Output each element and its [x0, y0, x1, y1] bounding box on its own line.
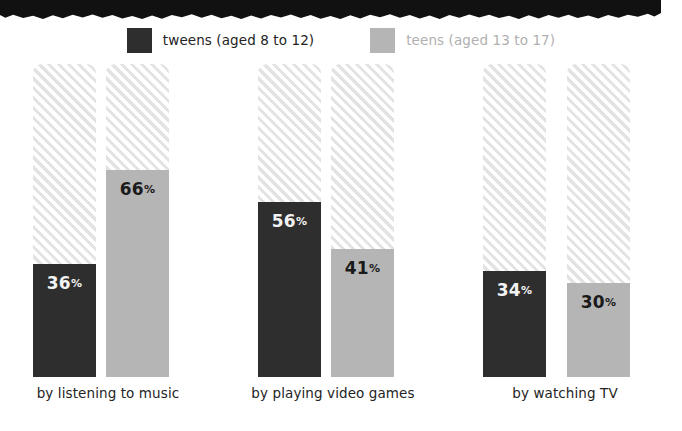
bar-fill-teens-music: 66%	[106, 170, 169, 377]
bar-teens-tv: 30%	[567, 64, 630, 377]
bar-value-teens-tv: 30%	[567, 292, 630, 312]
legend-swatch-teens	[370, 28, 395, 53]
bar-tweens-tv: 34%	[483, 64, 546, 377]
percent-sign: %	[605, 296, 616, 309]
legend-entry-tweens: tweens (aged 8 to 12)	[127, 28, 314, 53]
category-axis-labels: by listening to music by playing video g…	[0, 385, 682, 409]
legend-label-tweens: tweens (aged 8 to 12)	[163, 32, 314, 48]
bar-fill-teens-tv: 30%	[567, 283, 630, 377]
legend-label-teens: teens (aged 13 to 17)	[406, 32, 555, 48]
legend-swatch-tweens	[127, 28, 152, 53]
bar-tweens-music: 36%	[33, 64, 96, 377]
bar-value-tweens-music: 36%	[33, 273, 96, 293]
percent-sign: %	[521, 284, 532, 297]
category-label-tv: by watching TV	[470, 385, 660, 401]
chart-legend: tweens (aged 8 to 12) teens (aged 13 to …	[0, 27, 682, 53]
bar-fill-tweens-videogames: 56%	[258, 202, 321, 377]
bar-fill-teens-videogames: 41%	[331, 249, 394, 377]
percent-sign: %	[296, 215, 307, 228]
bar-fill-tweens-music: 36%	[33, 264, 96, 377]
percent-sign: %	[71, 277, 82, 290]
bar-value-teens-music: 66%	[106, 179, 169, 199]
category-label-videogames: by playing video games	[238, 385, 428, 401]
bar-teens-videogames: 41%	[331, 64, 394, 377]
bar-tweens-videogames: 56%	[258, 64, 321, 377]
bar-teens-music: 66%	[106, 64, 169, 377]
bar-fill-tweens-tv: 34%	[483, 271, 546, 377]
bar-value-tweens-videogames: 56%	[258, 211, 321, 231]
bar-value-teens-videogames: 41%	[331, 258, 394, 278]
percent-sign: %	[144, 183, 155, 196]
category-label-music: by listening to music	[13, 385, 203, 401]
percent-sign: %	[369, 262, 380, 275]
bar-value-tweens-tv: 34%	[483, 280, 546, 300]
torn-paper-band	[0, 0, 661, 21]
bar-chart-plot-area: 36% 66% 56% 41% 34%	[0, 64, 682, 377]
legend-entry-teens: teens (aged 13 to 17)	[370, 28, 555, 53]
